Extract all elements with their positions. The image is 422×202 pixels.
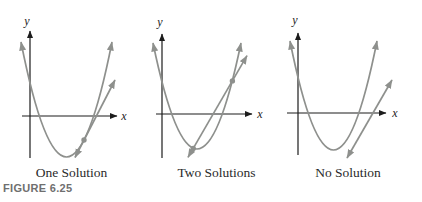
panel-no-solution: y x (287, 13, 398, 158)
panel-two-solutions: y x (153, 15, 263, 158)
y-axis-label: y (23, 14, 30, 28)
parabola-curve (153, 43, 241, 149)
figure-6-25: y x y x y x One Solution Two Solut (0, 0, 422, 202)
panel-one-solution: y x (21, 14, 127, 158)
figure-label: FIGURE 6.25 (3, 182, 72, 194)
x-axis-label: x (391, 106, 398, 120)
x-axis-label: x (120, 109, 127, 123)
parabola-curve (21, 42, 112, 157)
tangency-point-dot (81, 137, 86, 142)
line-curve (75, 80, 115, 158)
x-axis-label: x (256, 107, 263, 121)
caption-two-solutions: Two Solutions (166, 165, 267, 181)
y-axis-label: y (291, 13, 298, 27)
intersection-point-dot-lower (191, 146, 196, 151)
line-curve (347, 80, 392, 158)
caption-no-solution: No Solution (298, 165, 398, 181)
intersection-point-dot-upper (230, 78, 235, 83)
caption-one-solution: One Solution (21, 165, 122, 181)
y-axis-label: y (156, 15, 163, 29)
line-curve (188, 56, 247, 158)
parabola-curve (290, 41, 377, 150)
